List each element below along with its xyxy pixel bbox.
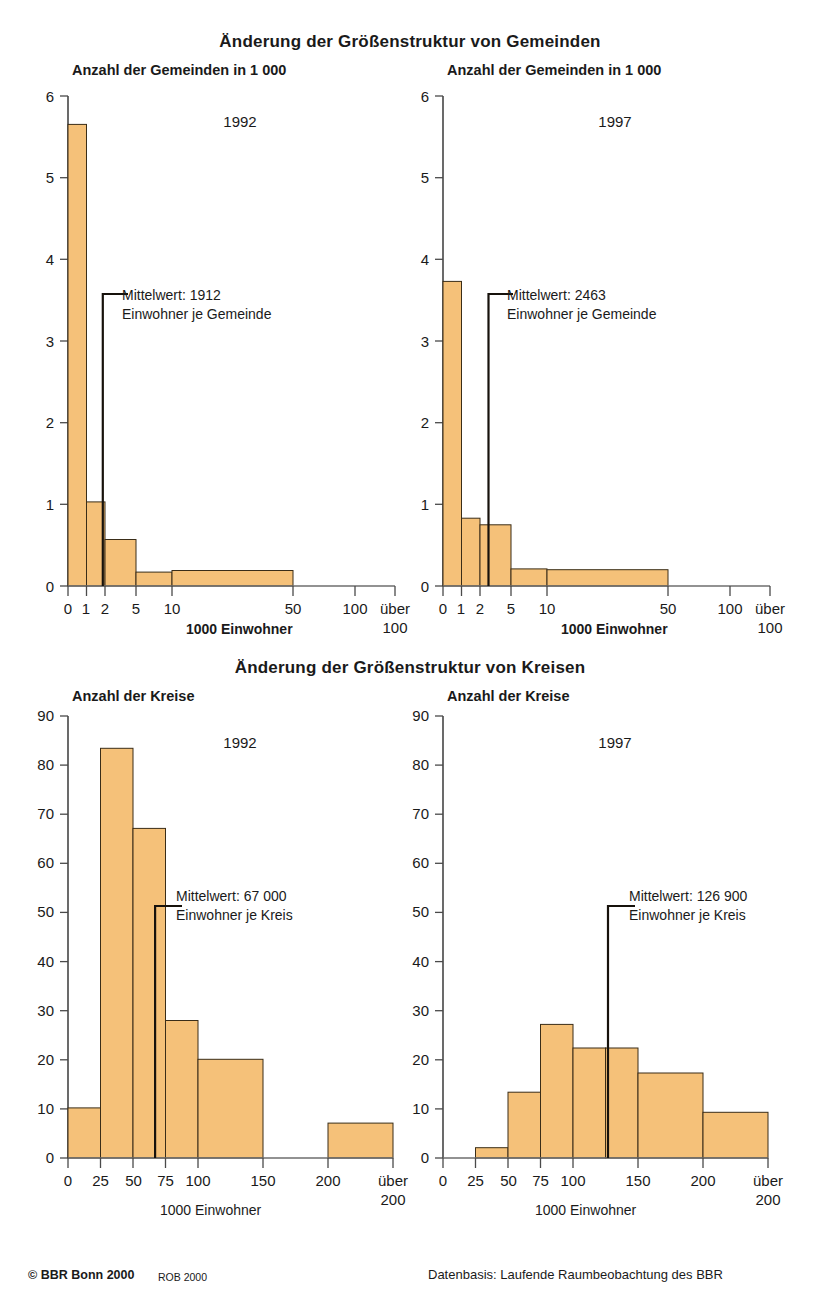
chart-gemeinden-1992-canvas: [0, 86, 410, 596]
footer-copyright: © BBR Bonn 2000: [28, 1268, 134, 1282]
x-label-k1992-25: 25: [83, 1172, 118, 1189]
y-label-g1992-0: 0: [20, 578, 54, 595]
y-label-k1992-60: 60: [18, 854, 54, 871]
y-label-k1992-50: 50: [18, 903, 54, 920]
chart-kreise-1997-canvas: [375, 710, 820, 1170]
y-label-k1997-60: 60: [393, 854, 429, 871]
footer-source: Datenbasis: Laufende Raumbeobachtung des…: [428, 1267, 723, 1282]
x-label-g1997-10: 10: [533, 600, 561, 617]
x-label-k1997-200: 200: [682, 1172, 724, 1189]
y-label-k1992-10: 10: [18, 1100, 54, 1117]
annotation-line-1: Mittelwert: 2463: [507, 286, 656, 305]
x-label-g1997-5: 5: [497, 600, 525, 617]
x-axis-title-kreise-1997: 1000 Einwohner: [535, 1202, 636, 1218]
y-label-g1997-4: 4: [395, 251, 429, 268]
annotation-line-1: Mittelwert: 126 900: [629, 887, 747, 906]
x-label-g1992-5: 5: [122, 600, 150, 617]
y-label-g1992-6: 6: [20, 88, 54, 105]
y-label-k1997-10: 10: [393, 1100, 429, 1117]
y-label-k1992-80: 80: [18, 756, 54, 773]
bar-gemeinden-1997-10-50: [547, 570, 668, 586]
y-label-k1992-20: 20: [18, 1051, 54, 1068]
y-label-k1997-80: 80: [393, 756, 429, 773]
y-label-g1992-5: 5: [20, 169, 54, 186]
y-label-g1992-3: 3: [20, 333, 54, 350]
chart-gemeinden-1992: [0, 86, 410, 596]
y-label-k1997-70: 70: [393, 805, 429, 822]
x-label-k1997-25: 25: [458, 1172, 493, 1189]
y-label-g1992-1: 1: [20, 496, 54, 513]
y-label-g1992-2: 2: [20, 414, 54, 431]
y-axis-caption-gemeinden-1997: Anzahl der Gemeinden in 1 000: [447, 62, 661, 78]
x-label-k1992-200: 200: [307, 1172, 349, 1189]
y-label-g1997-5: 5: [395, 169, 429, 186]
footer-code: ROB 2000: [158, 1271, 207, 1283]
x-label-k1992-150: 150: [242, 1172, 284, 1189]
y-label-g1997-2: 2: [395, 414, 429, 431]
bar-kreise-1997-25-50: [476, 1148, 509, 1158]
x-axis-title-kreise-1992: 1000 Einwohner: [160, 1202, 261, 1218]
x-label-k1997-50: 50: [491, 1172, 526, 1189]
bar-kreise-1997-100-125: [573, 1048, 606, 1158]
bar-kreise-1997-125-150: [606, 1048, 639, 1158]
bar-gemeinden-1992-5-10: [136, 572, 172, 586]
bar-kreise-1992-75-100: [166, 1021, 199, 1159]
y-label-k1997-20: 20: [393, 1051, 429, 1068]
x-label-g1992-over-l2: 100: [374, 619, 416, 636]
chart-kreise-1992-canvas: [0, 710, 410, 1170]
y-label-k1997-90: 90: [393, 707, 429, 724]
annotation-gemeinden-1997: Mittelwert: 2463 Einwohner je Gemeinde: [507, 286, 656, 324]
x-label-g1992-100: 100: [341, 600, 369, 617]
x-label-g1992-over-l1: über: [374, 600, 416, 617]
y-label-k1997-30: 30: [393, 1002, 429, 1019]
x-label-g1997-over-l1: über: [749, 600, 791, 617]
annotation-line-2: Einwohner je Gemeinde: [122, 305, 271, 324]
x-label-k1997-0: 0: [429, 1172, 457, 1189]
x-label-k1992-over-l2: 200: [372, 1191, 414, 1208]
chart-gemeinden-1997-canvas: [375, 86, 820, 596]
y-label-k1992-40: 40: [18, 953, 54, 970]
bar-kreise-1997-150-200: [638, 1073, 703, 1158]
y-label-k1997-0: 0: [393, 1149, 429, 1166]
bar-gemeinden-1992-10-50: [172, 571, 293, 587]
x-label-k1997-over-l1: über: [747, 1172, 789, 1189]
bar-gemeinden-1997-2-5: [480, 525, 511, 586]
y-label-g1997-6: 6: [395, 88, 429, 105]
y-label-g1997-3: 3: [395, 333, 429, 350]
x-label-g1992-50: 50: [279, 600, 307, 617]
annotation-gemeinden-1992: Mittelwert: 1912 Einwohner je Gemeinde: [122, 286, 271, 324]
x-label-g1997-50: 50: [654, 600, 682, 617]
bar-kreise-1997-50-75: [508, 1092, 541, 1158]
annotation-line-2: Einwohner je Gemeinde: [507, 305, 656, 324]
y-label-g1997-1: 1: [395, 496, 429, 513]
bar-kreise-1992-100-150: [198, 1059, 263, 1158]
x-label-k1997-100: 100: [552, 1172, 594, 1189]
annotation-kreise-1997: Mittelwert: 126 900 Einwohner je Kreis: [629, 887, 747, 925]
y-axis-caption-kreise-1992: Anzahl der Kreise: [72, 688, 195, 704]
chart-gemeinden-1997: [375, 86, 820, 596]
bar-gemeinden-1997-5-10: [511, 569, 547, 586]
x-label-k1992-over-l1: über: [372, 1172, 414, 1189]
y-label-k1992-70: 70: [18, 805, 54, 822]
x-label-k1992-0: 0: [54, 1172, 82, 1189]
y-label-k1992-90: 90: [18, 707, 54, 724]
bar-kreise-1992-0-25: [68, 1108, 101, 1158]
x-label-g1997-100: 100: [716, 600, 744, 617]
section-title-gemeinden: Änderung der Größenstruktur von Gemeinde…: [0, 32, 820, 52]
annotation-line-2: Einwohner je Kreis: [176, 906, 293, 925]
x-label-g1992-2: 2: [91, 600, 119, 617]
x-label-k1992-50: 50: [116, 1172, 151, 1189]
bar-gemeinden-1992-0-1: [68, 124, 87, 586]
annotation-line-1: Mittelwert: 67 000: [176, 887, 293, 906]
x-label-g1997-over-l2: 100: [749, 619, 791, 636]
y-label-k1997-40: 40: [393, 953, 429, 970]
x-label-k1997-150: 150: [617, 1172, 659, 1189]
x-axis-title-gemeinden-1992: 1000 Einwohner: [186, 621, 293, 637]
year-label-gemeinden-1997: 1997: [555, 113, 675, 130]
section-title-kreise: Änderung der Größenstruktur von Kreisen: [0, 658, 820, 678]
annotation-line-1: Mittelwert: 1912: [122, 286, 271, 305]
bar-gemeinden-1992-2-5: [105, 540, 136, 587]
bar-kreise-1992-50-75: [133, 828, 166, 1158]
x-label-g1992-10: 10: [158, 600, 186, 617]
x-label-g1997-2: 2: [466, 600, 494, 617]
